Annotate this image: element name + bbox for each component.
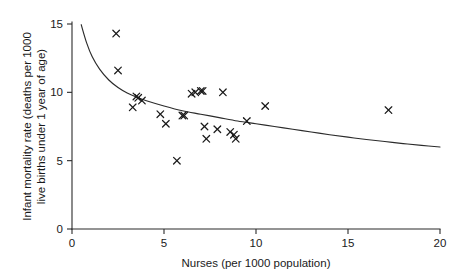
y-tick-label-5: 5	[57, 155, 63, 167]
y-tick-label-0: 0	[57, 223, 63, 235]
x-tick-label-0: 0	[69, 237, 75, 249]
x-tick-label-20: 20	[434, 237, 447, 249]
y-axis-title-line-2: live births under 1 year of age)	[35, 49, 47, 205]
y-tick-label-15: 15	[50, 18, 63, 30]
y-tick-label-10: 10	[50, 86, 63, 98]
x-axis-title: Nurses (per 1000 population)	[182, 257, 331, 269]
scatter-chart-figure: 051015 05101520 Nurses (per 1000 populat…	[0, 0, 465, 274]
x-tick-label-5: 5	[161, 237, 167, 249]
y-axis-title-line-1: Infant mortality rate (deaths per 1000	[21, 32, 33, 221]
x-tick-label-15: 15	[342, 237, 355, 249]
x-tick-label-10: 10	[250, 237, 263, 249]
chart-canvas: 051015 05101520 Nurses (per 1000 populat…	[0, 0, 465, 274]
